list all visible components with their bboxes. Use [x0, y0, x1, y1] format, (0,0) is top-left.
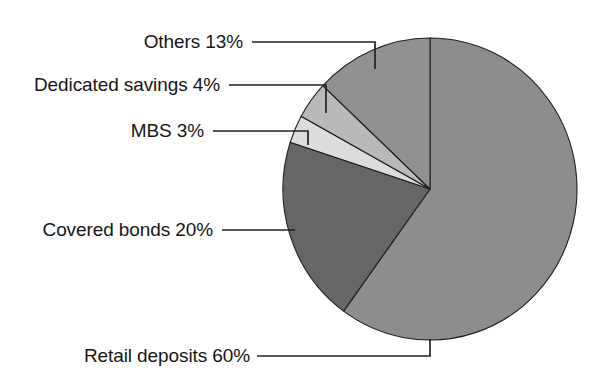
- pie-chart-figure: Others 13% Dedicated savings 4% MBS 3% C…: [0, 0, 616, 385]
- slice-label-mbs: MBS 3%: [131, 121, 204, 141]
- slice-label-retail-deposits: Retail deposits 60%: [84, 346, 250, 366]
- pie-slice-group: [283, 38, 577, 340]
- slice-label-others: Others 13%: [144, 32, 243, 52]
- leader-line-retail-deposits: [257, 339, 430, 356]
- slice-label-dedicated-savings: Dedicated savings 4%: [34, 75, 220, 95]
- pie-chart-canvas: [0, 0, 616, 385]
- slice-label-covered-bonds: Covered bonds 20%: [43, 220, 213, 240]
